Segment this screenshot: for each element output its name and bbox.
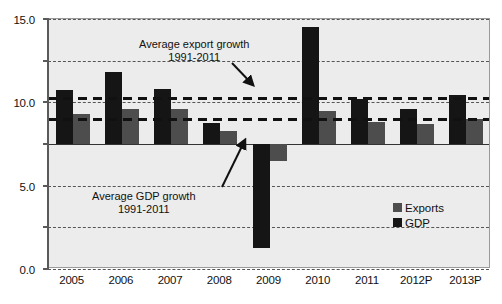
bar-exports-2006 xyxy=(122,109,139,144)
bar-exports-2007 xyxy=(171,109,188,144)
legend-label-gdp: GDP xyxy=(405,217,430,229)
annotation-export: Average export growth 1991-2011 xyxy=(139,38,249,64)
y-tick: 0.0 xyxy=(43,143,49,145)
annotation-gdp-line1: Average GDP growth xyxy=(92,190,196,203)
x-tick-label-2013P: 2013P xyxy=(449,274,481,286)
plot-area xyxy=(47,18,490,268)
y-tick-label: 15.0 xyxy=(13,14,35,26)
x-tick-label-2007: 2007 xyxy=(158,274,183,286)
legend: Exports GDP xyxy=(393,200,444,230)
annotation-gdp-line2: 1991-2011 xyxy=(92,203,196,216)
bar-gdp-2011 xyxy=(351,99,368,144)
y-tick: 15.0 xyxy=(43,18,49,20)
y-axis: 15.010.05.00.0-5.0-10.0-15.0 xyxy=(47,18,49,268)
bar-gdp-2008 xyxy=(203,123,220,144)
x-tick-label-2010: 2010 xyxy=(305,274,330,286)
y-tick-label: 5.0 xyxy=(20,181,35,193)
legend-swatch-gdp-icon xyxy=(393,218,402,227)
y-tick: -10.0 xyxy=(43,226,49,228)
bar-gdp-2009 xyxy=(253,144,270,248)
legend-item-gdp: GDP xyxy=(393,215,444,230)
bar-gdp-2012P xyxy=(400,109,417,144)
x-tick-label-2008: 2008 xyxy=(207,274,232,286)
gridline xyxy=(48,19,489,20)
y-tick-label: 0.0 xyxy=(20,264,35,276)
y-tick: 10.0 xyxy=(43,60,49,62)
legend-label-exports: Exports xyxy=(405,202,444,214)
bar-exports-2008 xyxy=(220,131,237,144)
x-tick-label-2005: 2005 xyxy=(59,274,84,286)
x-tick-label-2012P: 2012P xyxy=(400,274,432,286)
y-tick: -15.0 xyxy=(43,268,49,270)
gridline xyxy=(48,269,489,270)
y-tick-label: 10.0 xyxy=(13,97,35,109)
bar-exports-2013P xyxy=(466,119,483,144)
x-tick-label-2009: 2009 xyxy=(256,274,281,286)
bar-gdp-2006 xyxy=(105,72,122,145)
gridline xyxy=(48,61,489,62)
reference-line-avg-export-growth xyxy=(48,97,489,100)
bar-exports-2012P xyxy=(417,124,434,144)
bar-chart: 15.010.05.00.0-5.0-10.0-15.0 20052006200… xyxy=(0,0,502,304)
x-tick-label-2011: 2011 xyxy=(355,274,379,286)
y-tick: 5.0 xyxy=(43,101,49,103)
annotation-export-line2: 1991-2011 xyxy=(139,51,249,64)
bar-exports-2009 xyxy=(270,144,287,161)
bar-exports-2011 xyxy=(368,122,385,145)
y-tick: -5.0 xyxy=(43,185,49,187)
legend-swatch-exports-icon xyxy=(393,203,402,212)
annotation-gdp: Average GDP growth 1991-2011 xyxy=(92,190,196,216)
annotation-export-line1: Average export growth xyxy=(139,38,249,51)
bar-exports-2010 xyxy=(319,111,336,144)
x-tick-label-2006: 2006 xyxy=(108,274,133,286)
bar-gdp-2010 xyxy=(302,27,319,144)
legend-item-exports: Exports xyxy=(393,200,444,215)
reference-line-avg-gdp-growth xyxy=(48,118,489,121)
